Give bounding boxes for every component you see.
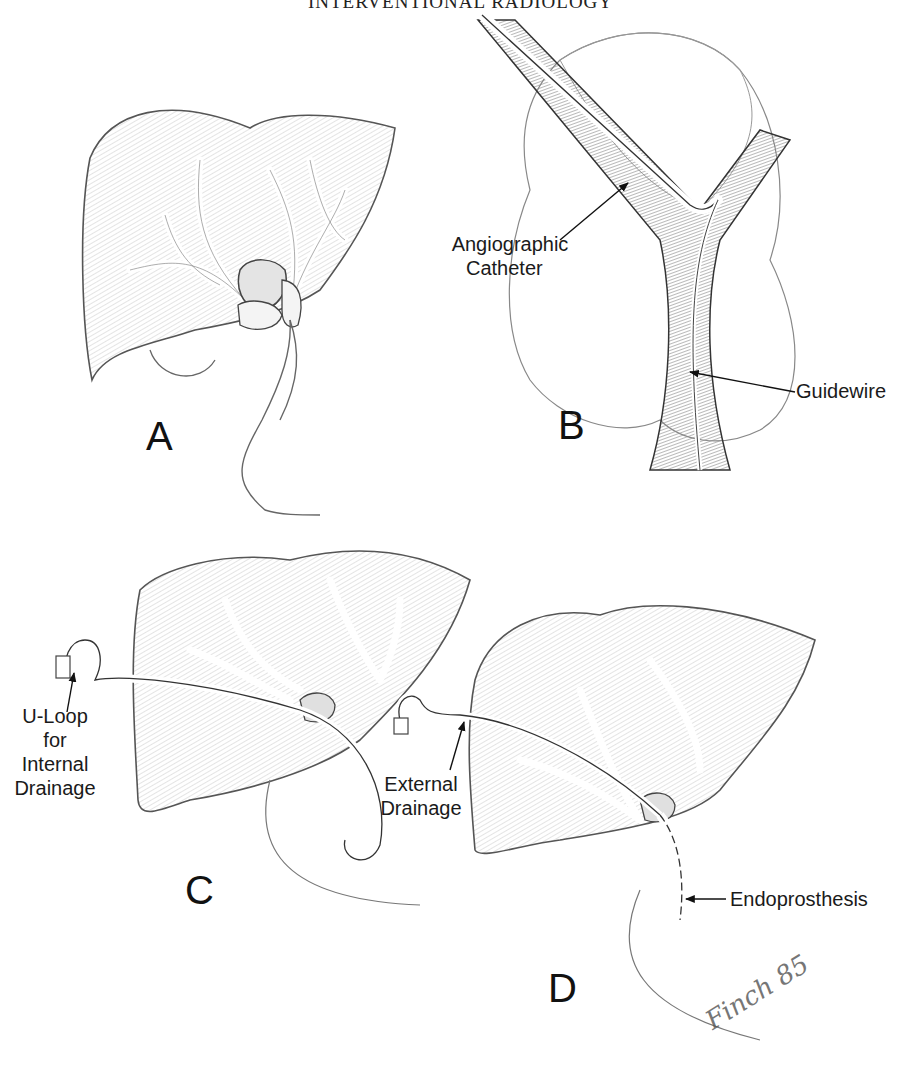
callout-line: U-Loop [0, 704, 110, 728]
callout-line: for [0, 728, 110, 752]
callout-line: Drainage [366, 796, 476, 820]
panel-letter-d: D [548, 968, 577, 1008]
panel-a-liver-drawing [83, 110, 395, 515]
panel-d-endoprosthesis-drawing [394, 606, 815, 1040]
panel-letter-c: C [185, 870, 214, 910]
callout-line: Angiographic [440, 232, 580, 256]
callout-line: Drainage [0, 776, 110, 800]
panel-letter-b: B [558, 405, 585, 445]
callout-u-loop: U-Loop for Internal Drainage [0, 704, 110, 800]
callout-guidewire: Guidewire [796, 379, 886, 403]
callout-line: Internal [0, 752, 110, 776]
callout-line: Catheter [440, 256, 580, 280]
callout-endoprosthesis: Endoprosthesis [730, 887, 868, 911]
callout-line: External [366, 772, 476, 796]
figure-illustrations [0, 0, 921, 1091]
callout-external-drainage: External Drainage [366, 772, 476, 820]
callout-angiographic-catheter: Angiographic Catheter [440, 232, 580, 280]
panel-letter-a: A [146, 416, 173, 456]
